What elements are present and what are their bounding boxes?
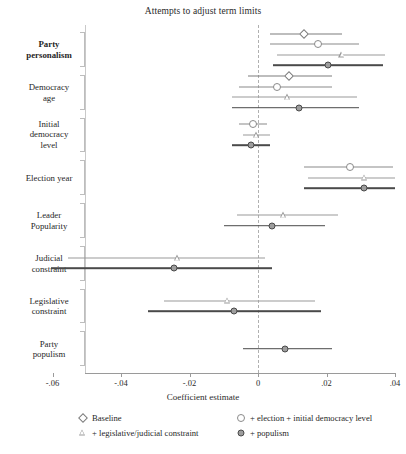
y-category-label-line: Leader [10, 210, 88, 221]
y-category-label-line: Legislative [10, 295, 88, 306]
y-category-label: LeaderPopularity [10, 210, 88, 231]
legend-marker [78, 428, 87, 437]
y-category-label-line: Party [10, 338, 88, 349]
marker-filled-circle [248, 142, 255, 149]
y-category-label-line: Election year [10, 172, 88, 183]
legend-item: + populism [236, 428, 404, 438]
y-axis-line [85, 25, 86, 373]
marker-filled-circle [282, 345, 289, 352]
y-group-bracket [80, 160, 85, 195]
legend-marker [78, 413, 87, 422]
legend-label: + legislative/judicial constraint [92, 428, 199, 438]
zero-reference-line [258, 25, 259, 373]
marker-filled-circle [296, 104, 303, 111]
marker-open-diamond [284, 71, 294, 81]
y-category-label-line: Party [10, 39, 88, 50]
marker-open-circle [273, 83, 281, 91]
chart-canvas: Attempts to adjust term limits -.06-.04-… [0, 0, 406, 454]
x-tick [258, 373, 259, 377]
legend-item: + legislative/judicial constraint [78, 428, 236, 438]
x-tick-label: -.02 [183, 378, 196, 388]
marker-open-circle [346, 163, 354, 171]
x-axis-line [85, 373, 395, 374]
x-tick [53, 373, 54, 377]
marker-open-triangle [281, 212, 287, 218]
marker-filled-circle [361, 185, 368, 192]
marker-open-circle [249, 120, 257, 128]
y-group-bracket [80, 118, 85, 153]
y-group-bracket [80, 289, 85, 324]
y-category-label-line: personalism [10, 49, 88, 60]
marker-open-triangle [339, 51, 345, 57]
x-tick-label: .02 [321, 378, 332, 388]
chart-legend: Baseline+ election + initial democracy l… [78, 410, 404, 440]
x-tick-label: .04 [390, 378, 401, 388]
marker-filled-circle [325, 62, 332, 69]
marker-filled-circle [171, 265, 178, 272]
y-group-bracket [80, 32, 85, 67]
marker-filled-circle [231, 308, 238, 315]
y-category-label-line: Popularity [10, 220, 88, 231]
x-tick [190, 373, 191, 377]
marker-filled-circle [237, 429, 244, 436]
confidence-interval-line [304, 187, 395, 189]
y-category-label-line: level [10, 140, 88, 151]
marker-open-triangle [175, 254, 181, 260]
chart-title: Attempts to adjust term limits [0, 6, 406, 16]
y-group-bracket [80, 246, 85, 281]
legend-item: + election + initial democracy level [236, 413, 404, 423]
marker-open-diamond [78, 413, 88, 423]
marker-open-triangle [80, 429, 86, 435]
y-category-label-line: democracy [10, 130, 88, 141]
x-tick-label: -.06 [46, 378, 59, 388]
legend-item: Baseline [78, 413, 236, 423]
x-tick [121, 373, 122, 377]
y-category-label: Judicialconstraint [10, 253, 88, 274]
legend-marker [236, 413, 245, 422]
legend-label: Baseline [92, 413, 122, 423]
y-category-label-line: Democracy [10, 82, 88, 93]
legend-label: + election + initial democracy level [250, 413, 372, 423]
x-tick [395, 373, 396, 377]
marker-open-triangle [253, 131, 259, 137]
y-category-label: Partypopulism [10, 338, 88, 359]
y-group-bracket [80, 75, 85, 110]
y-group-bracket [80, 331, 85, 366]
legend-marker [236, 428, 245, 437]
x-tick-label: 0 [256, 378, 260, 388]
y-group-bracket [80, 203, 85, 238]
y-category-label: Democracyage [10, 82, 88, 103]
x-tick-label: -.04 [114, 378, 127, 388]
marker-open-triangle [284, 94, 290, 100]
y-category-label: Partypersonalism [10, 39, 88, 60]
x-tick [327, 373, 328, 377]
confidence-interval-line [68, 257, 265, 258]
marker-open-triangle [224, 297, 230, 303]
marker-open-triangle [361, 174, 367, 180]
y-category-label-line: constraint [10, 306, 88, 317]
marker-open-diamond [299, 29, 309, 39]
marker-open-circle [237, 414, 245, 422]
confidence-interval-line [277, 54, 385, 55]
marker-filled-circle [268, 222, 275, 229]
y-category-label: Initialdemocracylevel [10, 119, 88, 151]
confidence-interval-line [239, 86, 331, 87]
marker-open-circle [314, 40, 322, 48]
confidence-interval-line [308, 177, 395, 178]
confidence-interval-line [51, 268, 272, 270]
confidence-interval-line [164, 300, 315, 301]
y-category-label: Legislativeconstraint [10, 295, 88, 316]
y-category-label-line: age [10, 92, 88, 103]
y-category-label-line: Initial [10, 119, 88, 130]
y-category-label-line: populism [10, 349, 88, 360]
legend-label: + populism [250, 428, 289, 438]
confidence-interval-line [237, 215, 338, 216]
x-axis-label: Coefficient estimate [0, 392, 406, 402]
y-category-label: Election year [10, 172, 88, 183]
confidence-interval-line [232, 97, 357, 98]
